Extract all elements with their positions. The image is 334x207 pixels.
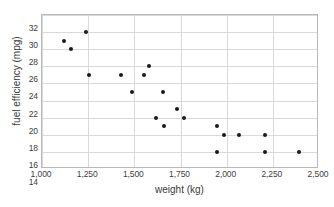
x-tick-label: 1,250 xyxy=(77,170,98,179)
x-tick-label: 1,750 xyxy=(169,170,190,179)
gridline-horizontal xyxy=(42,49,317,50)
gridline-horizontal xyxy=(42,15,317,16)
data-point xyxy=(215,124,219,128)
gridline-horizontal xyxy=(42,152,317,153)
data-point xyxy=(142,73,146,77)
x-tick-label: 2,250 xyxy=(261,170,282,179)
data-point xyxy=(182,116,186,120)
data-point xyxy=(154,116,158,120)
data-point xyxy=(263,150,267,154)
data-point xyxy=(119,73,123,77)
gridline-vertical xyxy=(227,15,228,167)
x-tick-label: 2,000 xyxy=(215,170,236,179)
x-axis-tick-labels: 1,0001,2501,5001,7502,0002,2502,500 xyxy=(41,170,318,182)
gridline-vertical xyxy=(273,15,274,167)
gridline-vertical xyxy=(181,15,182,167)
data-point xyxy=(215,150,219,154)
data-point xyxy=(162,124,166,128)
scatter-chart: 14161820222426283032 1,0001,2501,5001,75… xyxy=(0,0,334,207)
plot-area xyxy=(41,14,318,168)
gridline-horizontal xyxy=(42,118,317,119)
x-tick-label: 2,500 xyxy=(308,170,329,179)
gridline-vertical xyxy=(134,15,135,167)
gridline-horizontal xyxy=(42,32,317,33)
data-point xyxy=(87,73,91,77)
data-point xyxy=(237,133,241,137)
data-point xyxy=(175,107,179,111)
y-tick-label: 14 xyxy=(2,178,38,187)
gridline-horizontal xyxy=(42,83,317,84)
data-point xyxy=(263,133,267,137)
x-axis-title: weight (kg) xyxy=(41,185,318,195)
x-tick-label: 1,500 xyxy=(123,170,144,179)
x-tick-label: 1,000 xyxy=(31,170,52,179)
data-point xyxy=(297,150,301,154)
y-axis-title: fuel efficiency (mpg) xyxy=(12,4,22,158)
gridline-horizontal xyxy=(42,66,317,67)
gridline-vertical xyxy=(88,15,89,167)
gridline-vertical xyxy=(42,15,43,167)
data-point xyxy=(147,64,151,68)
data-point xyxy=(69,47,73,51)
gridline-horizontal xyxy=(42,135,317,136)
data-point xyxy=(62,39,66,43)
data-point xyxy=(161,90,165,94)
y-tick-label: 16 xyxy=(2,161,38,170)
data-point xyxy=(222,133,226,137)
gridline-horizontal xyxy=(42,101,317,102)
